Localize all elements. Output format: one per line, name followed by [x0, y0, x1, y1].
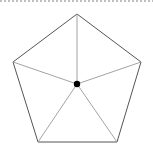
spoke-left [13, 62, 77, 84]
spoke-bottom-left [38, 84, 77, 142]
spoke-right [77, 62, 141, 84]
pentagon-diagram [0, 0, 153, 154]
spoke-bottom-right [77, 84, 117, 142]
center-dot [74, 81, 80, 87]
